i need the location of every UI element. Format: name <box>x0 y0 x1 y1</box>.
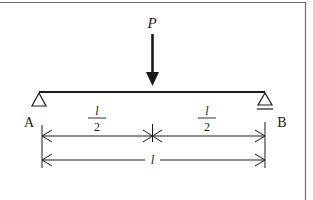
down-arrow-icon <box>146 72 159 86</box>
support-a: A <box>24 93 46 130</box>
beam-diagram: P A B l 2 l 2 <box>0 0 313 200</box>
svg-text:2: 2 <box>204 120 210 134</box>
svg-text:2: 2 <box>94 120 100 134</box>
roller-support-icon <box>258 93 272 105</box>
support-b: B <box>257 93 287 130</box>
svg-text:l: l <box>205 104 209 118</box>
support-a-label: A <box>24 115 35 130</box>
svg-text:l: l <box>95 104 99 118</box>
point-load: P <box>146 15 159 86</box>
pin-support-icon <box>32 93 46 106</box>
dimension-half-spans <box>42 130 265 142</box>
load-label: P <box>146 15 156 31</box>
label-half-right: l 2 <box>198 104 216 134</box>
label-total-span: l <box>151 152 155 167</box>
label-half-left: l 2 <box>88 104 106 134</box>
support-b-label: B <box>277 115 286 130</box>
